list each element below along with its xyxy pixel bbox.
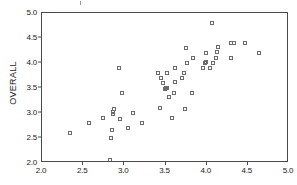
data-point <box>229 56 233 60</box>
data-points-layer <box>42 13 287 161</box>
data-point <box>215 50 219 54</box>
data-point <box>180 76 184 80</box>
y-tick-label: 4.5 <box>26 33 37 42</box>
y-tick-label: 3.0 <box>26 108 37 117</box>
data-point <box>214 56 218 60</box>
data-point <box>68 131 72 135</box>
y-tick-label: 2.5 <box>26 133 37 142</box>
data-point <box>184 46 188 50</box>
x-tick-label: 2.0 <box>36 166 47 175</box>
x-tick-mark <box>165 162 166 165</box>
y-tick-label: 3.5 <box>26 83 37 92</box>
data-point <box>120 91 124 95</box>
data-point <box>159 76 163 80</box>
data-point <box>165 86 169 90</box>
data-point <box>204 51 208 55</box>
y-tick-label: 4.0 <box>26 58 37 67</box>
x-tick-label: 2.5 <box>77 166 88 175</box>
data-point <box>211 61 215 65</box>
data-point <box>161 81 165 85</box>
x-tick-mark <box>206 162 207 165</box>
data-point <box>117 66 121 70</box>
data-point <box>108 158 112 161</box>
data-point <box>185 61 189 65</box>
x-tick-label: 4.5 <box>242 166 253 175</box>
data-point <box>87 121 91 125</box>
plot-area <box>41 12 288 162</box>
data-point <box>140 121 144 125</box>
x-tick-label: 4.0 <box>200 166 211 175</box>
data-point <box>173 66 177 70</box>
data-point <box>243 41 247 45</box>
data-point <box>109 136 113 140</box>
data-point <box>173 80 177 84</box>
data-point <box>208 66 212 70</box>
data-point <box>167 95 171 99</box>
data-point <box>165 71 169 75</box>
top-tick-artifact <box>80 1 81 5</box>
y-tick-mark <box>38 37 41 38</box>
y-axis-tick-labels: 2.02.53.03.54.04.55.0 <box>12 0 37 185</box>
data-point <box>201 66 205 70</box>
data-point <box>101 116 105 120</box>
y-tick-mark <box>38 87 41 88</box>
data-point <box>216 45 220 49</box>
data-point <box>172 91 176 95</box>
y-tick-mark <box>38 137 41 138</box>
data-point <box>183 107 187 111</box>
x-tick-label: 3.5 <box>159 166 170 175</box>
y-tick-label: 5.0 <box>26 8 37 17</box>
data-point <box>257 51 261 55</box>
scatter-plot-figure: OVERALL 2.02.53.03.54.04.55.0 2.02.53.03… <box>0 0 297 185</box>
x-tick-mark <box>82 162 83 165</box>
data-point <box>158 106 162 110</box>
data-point <box>156 71 160 75</box>
data-point <box>118 117 122 121</box>
data-point <box>112 107 116 111</box>
x-tick-label: 3.0 <box>118 166 129 175</box>
y-tick-mark <box>38 62 41 63</box>
x-tick-mark <box>247 162 248 165</box>
data-point <box>131 111 135 115</box>
data-point <box>110 128 114 132</box>
y-tick-mark <box>38 112 41 113</box>
data-point <box>191 56 195 60</box>
data-point <box>204 60 208 64</box>
data-point <box>232 41 236 45</box>
data-point <box>182 71 186 75</box>
data-point <box>210 21 214 25</box>
x-axis-tick-labels: 2.02.53.03.54.04.55.0 <box>0 166 297 178</box>
data-point <box>126 126 130 130</box>
x-tick-mark <box>123 162 124 165</box>
x-tick-label: 5.0 <box>283 166 294 175</box>
data-point <box>190 91 194 95</box>
data-point <box>170 116 174 120</box>
